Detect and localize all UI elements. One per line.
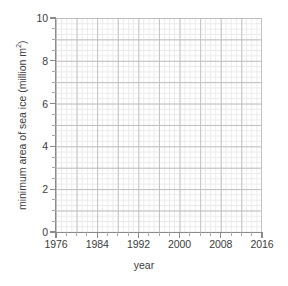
y-axis-tick	[50, 189, 56, 190]
y-axis-minor-tick	[52, 82, 56, 83]
x-axis-minor-tick	[169, 232, 170, 236]
x-axis-minor-tick	[159, 232, 160, 236]
x-axis-tick-label: 2000	[168, 239, 191, 250]
y-axis-minor-tick	[52, 210, 56, 211]
y-axis-minor-tick	[52, 28, 56, 29]
y-axis-minor-tick	[52, 71, 56, 72]
y-axis-minor-tick	[52, 39, 56, 40]
y-axis-minor-tick	[52, 114, 56, 115]
y-axis-title: minimum area of sea ice (million m2)	[14, 18, 30, 232]
y-axis-minor-tick	[52, 167, 56, 168]
y-axis-unit-exponent: 2	[14, 44, 23, 48]
y-axis-minor-tick	[52, 135, 56, 136]
x-axis-minor-tick	[107, 232, 108, 236]
grid-top-edge	[56, 18, 262, 19]
y-axis-minor-tick	[52, 125, 56, 126]
y-axis-tick	[50, 17, 56, 18]
y-axis-tick-label: 0	[42, 227, 48, 238]
grid-right-edge	[261, 18, 262, 232]
x-axis-minor-tick	[76, 232, 77, 236]
y-axis-tick-label: 6	[42, 99, 48, 110]
plot-area	[56, 18, 262, 232]
y-axis-tick	[50, 146, 56, 147]
y-axis-minor-tick	[52, 199, 56, 200]
y-axis-tick	[50, 231, 56, 232]
x-axis-tick-label: 1976	[45, 239, 68, 250]
y-axis-minor-tick	[52, 157, 56, 158]
y-axis-minor-tick	[52, 50, 56, 51]
x-axis-title: year	[0, 260, 288, 271]
y-axis-title-text: minimum area of sea ice (million m2)	[17, 40, 28, 210]
y-axis-tick-label: 2	[42, 184, 48, 195]
x-axis-minor-tick	[148, 232, 149, 236]
y-axis-tick-label: 10	[37, 13, 48, 24]
x-axis-minor-tick	[66, 232, 67, 236]
x-axis-minor-tick	[241, 232, 242, 236]
y-axis-tick-label: 4	[42, 141, 48, 152]
y-axis-minor-tick	[52, 221, 56, 222]
x-axis-tick-label: 2008	[209, 239, 232, 250]
x-axis-tick-label: 1992	[127, 239, 150, 250]
x-axis-minor-tick	[189, 232, 190, 236]
x-axis-minor-tick	[117, 232, 118, 236]
x-axis-tick-label: 1984	[86, 239, 109, 250]
x-axis-title-text: year	[134, 259, 154, 271]
sea-ice-grid-chart: 1976198419922000200820160246810 minimum …	[0, 0, 288, 286]
major-gridlines	[56, 18, 262, 232]
x-axis-minor-tick	[86, 232, 87, 236]
y-axis-minor-tick	[52, 92, 56, 93]
x-axis-minor-tick	[210, 232, 211, 236]
y-axis-tick	[50, 103, 56, 104]
x-axis-minor-tick	[128, 232, 129, 236]
x-axis-minor-tick	[200, 232, 201, 236]
x-axis-tick-label: 2016	[251, 239, 274, 250]
x-axis-minor-tick	[231, 232, 232, 236]
x-axis-minor-tick	[251, 232, 252, 236]
y-axis-tick	[50, 60, 56, 61]
y-axis-minor-tick	[52, 178, 56, 179]
y-axis-tick-label: 8	[42, 56, 48, 67]
